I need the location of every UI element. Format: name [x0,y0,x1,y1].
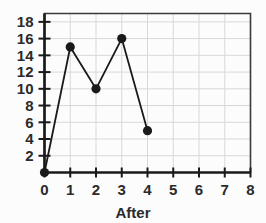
y-tick-label: 10 [17,80,34,97]
x-tick-label: 2 [92,181,100,198]
data-point-marker [143,126,152,135]
data-point-marker [117,34,126,43]
y-tick-label: 6 [25,114,33,131]
y-tick-label: 18 [17,13,34,30]
x-axis-title: After [115,204,150,221]
x-tick-label: 7 [221,181,229,198]
y-tick-label: 2 [25,147,33,164]
x-tick-label: 5 [169,181,177,198]
chart-screenshot: 012345678 24681012141618 After [0,0,266,223]
y-tick-label: 4 [25,130,34,147]
y-tick-label: 16 [17,30,34,47]
y-tick-label: 12 [17,63,34,80]
x-tick-label: 4 [143,181,152,198]
x-tick-label: 6 [195,181,203,198]
x-tick-label: 3 [118,181,126,198]
y-tick-label: 14 [17,47,34,64]
data-point-marker [40,168,49,177]
x-tick-label: 8 [246,181,254,198]
line-chart: 012345678 24681012141618 After [0,0,266,223]
x-tick-label: 1 [66,181,74,198]
x-axis-tick-labels: 012345678 [40,181,254,198]
x-tick-label: 0 [40,181,48,198]
data-point-marker [66,42,75,51]
data-point-marker [91,84,100,93]
y-tick-label: 8 [25,97,33,114]
